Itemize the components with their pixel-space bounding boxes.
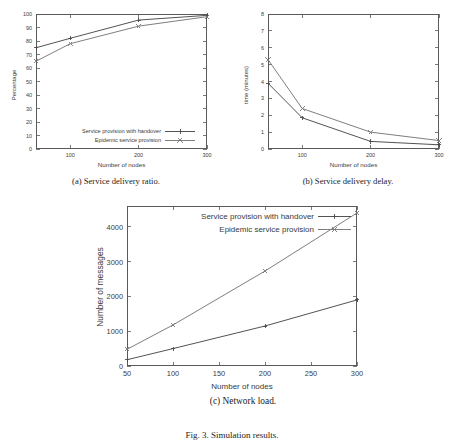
y-axis-tick-label: 5 [232, 62, 264, 68]
x-axis-tick-label: 100 [282, 152, 322, 158]
y-axis-tick-label: 2000 [91, 292, 123, 301]
y-axis-tick-label: 90 [0, 25, 32, 31]
y-axis-tick-label: 0 [0, 146, 32, 152]
subcaption-c: (c) Network load. [78, 396, 408, 406]
x-axis-tick-label: 300 [419, 152, 459, 158]
figure-caption: Fig. 3. Simulation results. [0, 430, 464, 440]
y-axis-tick-label: 50 [0, 79, 32, 85]
x-axis-label: Number of nodes [127, 382, 357, 391]
x-axis-label: Number of nodes [36, 161, 207, 168]
x-axis-tick-label: 250 [291, 369, 331, 378]
y-axis-tick-label: 80 [0, 38, 32, 44]
y-axis-tick-label: 70 [0, 52, 32, 58]
y-axis-tick-label: 3 [232, 95, 264, 101]
x-axis-tick-label: 150 [199, 369, 239, 378]
x-axis-tick-label: 300 [187, 152, 227, 158]
x-axis-tick-label: 200 [351, 152, 391, 158]
y-axis-tick-label: 1000 [91, 327, 123, 336]
y-axis-tick-label: 1 [232, 129, 264, 135]
plot-lines-b [268, 14, 439, 149]
x-axis-tick-label: 100 [153, 369, 193, 378]
y-axis-tick-label: 8 [232, 11, 264, 17]
x-axis-tick-label: 300 [337, 369, 377, 378]
legend-label-2: Epidemic service provision [169, 225, 314, 234]
x-axis-tick-label: 50 [107, 369, 147, 378]
x-axis-tick-label: 100 [50, 152, 90, 158]
chart-panel-b: time (minutes) Number of nodes (b) Servi… [232, 4, 464, 190]
y-axis-tick-label: 7 [232, 28, 264, 34]
y-axis-tick-label: 30 [0, 106, 32, 112]
y-axis-tick-label: 0 [232, 146, 264, 152]
y-axis-tick-label: 40 [0, 92, 32, 98]
y-axis-tick-label: 6 [232, 45, 264, 51]
subcaption-a: (a) Service delivery ratio. [0, 176, 232, 186]
legend-label-2: Epidemic service provision [66, 137, 161, 143]
subcaption-b: (b) Service delivery delay. [232, 176, 464, 186]
chart-panel-a: Percentage Number of nodes (a) Service d… [0, 4, 232, 190]
y-axis-tick-label: 4 [232, 79, 264, 85]
y-axis-tick-label: 4000 [91, 223, 123, 232]
figure-simulation-results: Percentage Number of nodes (a) Service d… [0, 0, 464, 441]
y-axis-tick-label: 20 [0, 119, 32, 125]
x-axis-tick-label: 200 [119, 152, 159, 158]
y-axis-tick-label: 3000 [91, 258, 123, 267]
y-axis-tick-label: 10 [0, 133, 32, 139]
y-axis-tick-label: 100 [0, 11, 32, 17]
legend-label-1: Service provision with handover [169, 212, 314, 221]
chart-panel-c: Number of messages Number of nodes (c) N… [78, 198, 408, 413]
x-axis-tick-label: 200 [245, 369, 285, 378]
x-axis-label: Number of nodes [268, 161, 439, 168]
y-axis-tick-label: 2 [232, 112, 264, 118]
legend-label-1: Service provision with handover [66, 128, 161, 134]
plot-area-b [268, 14, 439, 149]
y-axis-tick-label: 60 [0, 65, 32, 71]
